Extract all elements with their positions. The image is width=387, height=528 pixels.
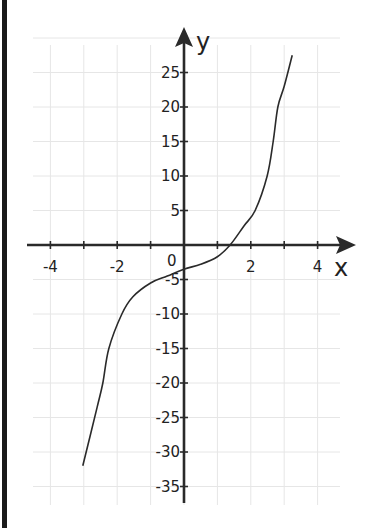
axes [27,27,356,503]
origin-label: 0 [167,252,177,270]
y-tick-label: -30 [156,443,181,461]
y-tick-label: -15 [156,340,181,358]
y-tick-label: 5 [170,202,180,220]
y-axis-label: y [196,28,210,56]
y-tick-label: 15 [161,133,180,151]
x-axis-label: x [334,254,348,282]
grid-lines [33,38,340,505]
x-tick-label: 2 [246,258,256,276]
y-tick-label: -25 [156,409,181,427]
x-tick-label: -4 [43,258,58,276]
x-tick-label: 4 [313,258,323,276]
y-tick-label: -20 [156,374,181,392]
x-tick-label: -2 [110,258,125,276]
y-tick-label: 25 [161,64,180,82]
y-tick-label: -10 [156,305,181,323]
function-graph: -4-224252015105-5-10-15-20-25-30-35 x y … [0,0,387,528]
y-tick-label: 10 [161,167,180,185]
y-tick-label: 20 [161,98,180,116]
y-tick-label: -35 [156,478,181,496]
